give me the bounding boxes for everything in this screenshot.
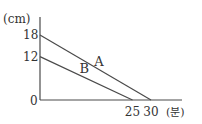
x-tick-label: 25 (125, 105, 140, 119)
series-label-b: B (79, 61, 89, 76)
origin-label: 0 (30, 94, 38, 108)
y-tick-label: 12 (23, 50, 38, 64)
x-tick-label: 30 (143, 105, 158, 119)
y-axis-label: (cm) (3, 12, 30, 26)
y-tick-label: 18 (23, 28, 38, 42)
x-axis-label: (분) (166, 106, 185, 119)
series-label-a: A (93, 54, 104, 69)
chart: (cm) (분) 0 18122530 AB (0, 0, 202, 124)
